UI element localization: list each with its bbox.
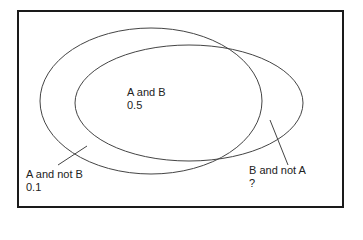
set-b-ellipse xyxy=(75,45,303,161)
region-b-not-a-label: B and not A ? xyxy=(249,164,306,190)
region-a-not-b-value: 0.1 xyxy=(26,181,83,194)
region-b-not-a-title: B and not A xyxy=(249,164,306,177)
region-a-and-b-title: A and B xyxy=(127,86,166,99)
region-b-not-a-value: ? xyxy=(249,177,306,190)
region-a-and-b-label: A and B 0.5 xyxy=(127,86,166,112)
region-a-not-b-label: A and not B 0.1 xyxy=(26,168,83,194)
region-a-not-b-title: A and not B xyxy=(26,168,83,181)
pointer-a-not-b xyxy=(58,146,87,165)
region-a-and-b-value: 0.5 xyxy=(127,99,166,112)
